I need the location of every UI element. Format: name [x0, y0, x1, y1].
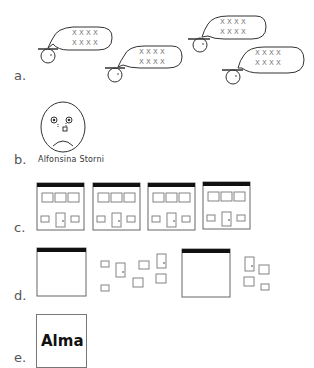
panel-a-figures: XXXX XXXX XXXX XXXX XXXX XXXX XXXX XXXX: [0, 0, 314, 100]
svg-text:XXXX: XXXX: [255, 49, 283, 57]
svg-text:XXXX: XXXX: [255, 59, 283, 67]
scattered-elements: [101, 254, 269, 291]
panel-label-d: d.: [14, 288, 26, 303]
building-3: [148, 183, 195, 230]
alma-text: Alma: [41, 332, 84, 350]
svg-text:XXXX: XXXX: [139, 48, 167, 56]
svg-text:XXXX: XXXX: [139, 58, 167, 66]
svg-text:XXXX: XXXX: [72, 29, 100, 37]
blank-facade-1: [37, 248, 86, 296]
svg-text:XXXX: XXXX: [72, 39, 100, 47]
blank-facade-2: [182, 249, 230, 297]
building-2: [93, 183, 140, 230]
face-caption: Alfonsina Storni: [38, 155, 104, 164]
panel-label-e: e.: [14, 350, 26, 365]
svg-text:XXXX: XXXX: [220, 18, 248, 26]
panel-label-c: c.: [14, 220, 25, 235]
svg-text:XXXX: XXXX: [220, 28, 248, 36]
building-1: [37, 183, 84, 230]
building-4: [203, 182, 250, 229]
panel-label-b: b.: [14, 152, 26, 167]
